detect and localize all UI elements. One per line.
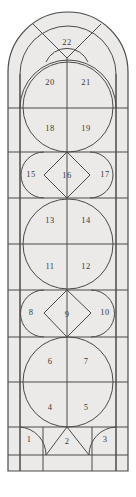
cell-label-22: 22 [62,37,71,47]
cell-label-15: 15 [26,169,35,179]
cell-label-4: 4 [48,402,53,412]
cell-label-14: 14 [81,215,91,225]
cell-label-21: 21 [81,77,90,87]
panel-glass [8,12,128,471]
cell-label-2: 2 [65,436,70,446]
window-panel-diagram: 1 2 3 4 5 6 7 8 9 10 11 12 13 14 15 16 1… [0,0,136,497]
cell-label-6: 6 [48,356,53,366]
cell-label-19: 19 [81,123,90,133]
panel-fill [8,12,128,471]
cell-label-17: 17 [100,169,109,179]
cell-label-13: 13 [45,215,54,225]
cell-label-11: 11 [46,261,55,271]
cell-label-18: 18 [45,123,54,133]
cell-label-9: 9 [65,309,70,319]
cell-label-12: 12 [81,261,90,271]
cell-label-5: 5 [84,402,89,412]
cell-label-16: 16 [62,170,71,180]
cell-label-20: 20 [45,77,54,87]
cell-label-1: 1 [27,434,32,444]
cell-label-7: 7 [84,356,89,366]
cell-label-10: 10 [100,307,109,317]
cell-label-8: 8 [29,307,34,317]
cell-label-3: 3 [103,434,108,444]
